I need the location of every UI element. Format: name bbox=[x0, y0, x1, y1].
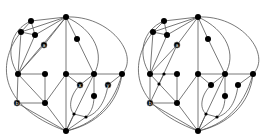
graph-node bbox=[205, 36, 211, 42]
graph-node bbox=[250, 71, 256, 77]
graph-node bbox=[208, 82, 214, 88]
figure-canvas: a x y b bbox=[0, 0, 261, 138]
graph-node bbox=[147, 71, 153, 77]
graph-node bbox=[174, 71, 180, 77]
graph-node bbox=[91, 93, 97, 99]
graph-node bbox=[235, 82, 241, 88]
graph-node bbox=[42, 71, 48, 77]
graph-node-small bbox=[72, 112, 75, 115]
graph-node bbox=[63, 128, 69, 134]
node-label-b: b bbox=[15, 100, 18, 106]
graph-node bbox=[119, 71, 125, 77]
graph-node bbox=[42, 100, 48, 106]
graph-node bbox=[161, 18, 167, 24]
node-label-a: a bbox=[175, 42, 178, 48]
graph-node bbox=[195, 128, 201, 134]
graph-node bbox=[63, 71, 69, 77]
graph-node-small bbox=[84, 115, 87, 118]
graph-diagram: a x y b bbox=[0, 0, 261, 138]
graph-node bbox=[74, 36, 80, 42]
node-label-b: b bbox=[148, 100, 151, 106]
right-graph: a b bbox=[138, 14, 258, 134]
graph-node bbox=[91, 71, 97, 77]
graph-node bbox=[32, 32, 38, 38]
graph-node bbox=[222, 71, 228, 77]
graph-node bbox=[174, 100, 180, 106]
graph-node-small bbox=[204, 112, 207, 115]
graph-node bbox=[15, 71, 21, 77]
left-graph: a x y b bbox=[6, 14, 127, 134]
graph-node bbox=[150, 29, 156, 35]
graph-node bbox=[222, 93, 228, 99]
graph-node-small bbox=[215, 115, 218, 118]
graph-node-small bbox=[157, 82, 160, 85]
graph-node bbox=[63, 14, 69, 20]
graph-node bbox=[195, 14, 201, 20]
graph-node-small bbox=[162, 72, 165, 75]
node-label-a: a bbox=[42, 42, 45, 48]
node-label-y: y bbox=[107, 82, 110, 89]
graph-node bbox=[18, 29, 24, 35]
graph-node bbox=[28, 18, 34, 24]
graph-node bbox=[195, 71, 201, 77]
node-label-x: x bbox=[79, 82, 82, 88]
graph-node bbox=[164, 32, 170, 38]
